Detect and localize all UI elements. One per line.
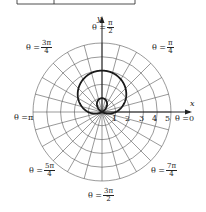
angle-label-3pi-over-4: θ = 3π4 (26, 40, 52, 55)
angle-label-3pi-over-2: θ = 3π2 (88, 188, 114, 203)
x-axis-label: x (190, 99, 195, 108)
table-fragment (17, 0, 135, 4)
angle-label-pi: θ = π (14, 114, 33, 122)
tick-2: 2 (125, 114, 130, 123)
angle-label-pi-over-4: θ = π4 (152, 40, 174, 55)
tick-3: 3 (139, 114, 144, 123)
angle-label-5pi-over-4: θ = 5π4 (29, 163, 55, 178)
tick-5: 5 (165, 114, 170, 123)
angle-label-7pi-over-4: θ = 7π4 (151, 163, 177, 178)
angle-label-0: θ = 0 (175, 115, 194, 123)
tick-4: 4 (152, 114, 157, 123)
angle-label-pi-over-2: θ = π2 (92, 20, 114, 35)
tick-1: 1 (112, 114, 117, 123)
